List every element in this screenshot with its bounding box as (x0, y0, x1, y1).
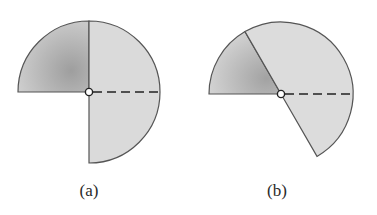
diagram-canvas: (a) (b) (0, 0, 377, 215)
pivot-point-a (85, 88, 92, 95)
dark-sector-a (18, 21, 89, 92)
figure-label-a: (a) (80, 181, 99, 200)
figure-label-b: (b) (267, 181, 287, 200)
figure-b: (b) (209, 22, 353, 200)
figure-a: (a) (18, 21, 160, 200)
pivot-point-b (277, 90, 284, 97)
